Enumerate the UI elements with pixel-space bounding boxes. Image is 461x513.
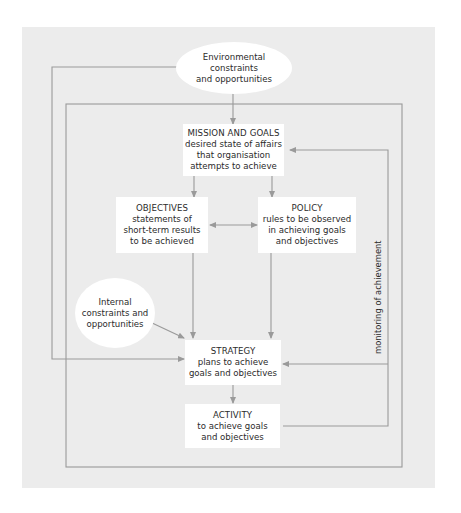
environmental-constraints-node: Environmental constraints and opportunit… — [176, 42, 292, 94]
environmental-line-2: and opportunities — [182, 74, 286, 85]
policy-desc-2: in achieving goals — [268, 225, 346, 236]
policy-title: POLICY — [292, 203, 323, 214]
activity-node: ACTIVITY to achieve goals and objectives — [185, 404, 280, 448]
objectives-title: OBJECTIVES — [136, 203, 188, 214]
strategy-desc-2: goals and objectives — [189, 368, 277, 379]
policy-desc-1: rules to be observed — [263, 214, 352, 225]
activity-title: ACTIVITY — [213, 410, 252, 421]
policy-node: POLICY rules to be observed in achieving… — [258, 197, 356, 253]
activity-desc-2: and objectives — [201, 432, 264, 443]
internal-line-1: Internal — [82, 297, 149, 308]
internal-line-3: opportunities — [82, 319, 149, 330]
strategy-node: STRATEGY plans to achieve goals and obje… — [185, 340, 281, 385]
mission-desc-3: attempts to achieve — [190, 161, 277, 172]
objectives-node: OBJECTIVES statements of short-term resu… — [116, 197, 208, 253]
activity-desc-1: to achieve goals — [197, 421, 267, 432]
mission-and-goals-node: MISSION AND GOALS desired state of affai… — [183, 124, 284, 176]
policy-desc-3: and objectives — [276, 236, 339, 247]
internal-constraints-node: Internal constraints and opportunities — [75, 278, 155, 348]
strategy-desc-1: plans to achieve — [198, 357, 269, 368]
environmental-line-1: Environmental constraints — [182, 52, 286, 74]
mission-title: MISSION AND GOALS — [187, 128, 279, 139]
internal-line-2: constraints and — [82, 308, 149, 319]
strategy-title: STRATEGY — [211, 346, 256, 357]
objectives-desc-1: statements of — [132, 214, 192, 225]
mission-desc-2: that organisation — [197, 150, 271, 161]
mission-desc-1: desired state of affairs — [185, 139, 282, 150]
objectives-desc-2: short-term results — [123, 225, 200, 236]
objectives-desc-3: to be achieved — [130, 236, 194, 247]
monitoring-of-achievement-label: monitoring of achievement — [373, 240, 383, 354]
